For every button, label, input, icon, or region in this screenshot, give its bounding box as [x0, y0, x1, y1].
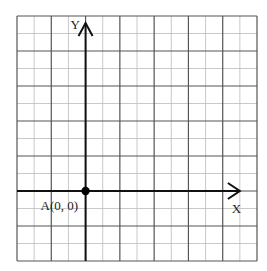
y-axis-label: Y: [71, 17, 81, 32]
point-a-label: A(0, 0): [41, 198, 79, 213]
coordinate-plane: X Y A(0, 0): [0, 0, 267, 271]
axes: [17, 23, 240, 261]
point-a: [81, 187, 89, 195]
minor-grid: [17, 16, 257, 261]
x-axis-label: X: [232, 201, 242, 216]
